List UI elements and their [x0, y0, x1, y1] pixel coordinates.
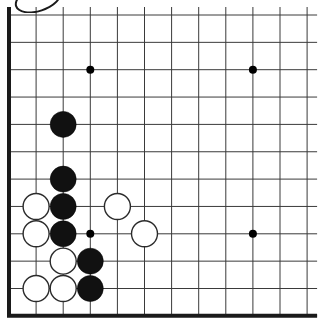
white-stone-c1-r8[interactable]: [23, 221, 49, 247]
white-stone-c1-r7[interactable]: [23, 193, 49, 219]
white-stone-c5-r8[interactable]: [132, 221, 158, 247]
black-stone-c2-r4[interactable]: [50, 111, 76, 137]
white-stone-c2-r9[interactable]: [50, 248, 76, 274]
black-stone-c3-r9[interactable]: [77, 248, 103, 274]
black-stone-c3-r10[interactable]: [77, 276, 103, 302]
star-point-0: [86, 66, 94, 74]
scan-artifact-arc-icon: [11, 0, 62, 13]
corner-artifact-clip: [0, 0, 62, 13]
star-point-3: [249, 230, 257, 238]
go-board-svg: [0, 0, 323, 329]
star-point-1: [249, 66, 257, 74]
white-stone-c1-r10[interactable]: [23, 276, 49, 302]
white-stone-c4-r7[interactable]: [104, 193, 130, 219]
star-point-2: [86, 230, 94, 238]
black-stone-c2-r8[interactable]: [50, 221, 76, 247]
board-background: [0, 0, 323, 329]
white-stone-c2-r10[interactable]: [50, 276, 76, 302]
black-stone-c2-r7[interactable]: [50, 193, 76, 219]
go-board-diagram: [0, 0, 323, 329]
black-stone-c2-r6[interactable]: [50, 166, 76, 192]
